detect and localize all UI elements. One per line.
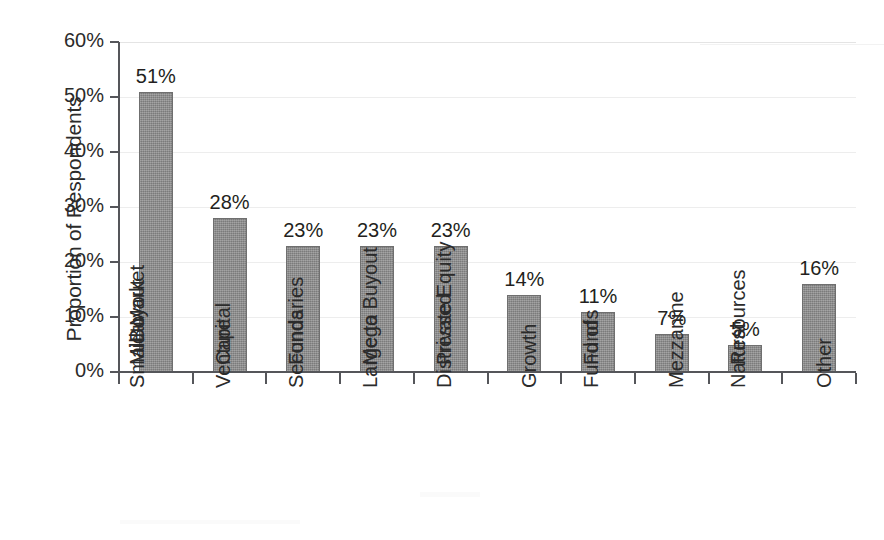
x-category-label-line: Mezzanine bbox=[665, 365, 688, 388]
x-category-label-line: Venture bbox=[212, 365, 235, 388]
gridline-60 bbox=[119, 42, 856, 43]
x-category-label-line: Capital bbox=[212, 342, 235, 365]
bar-value-label: 23% bbox=[414, 219, 488, 242]
x-tick-mark-6 bbox=[560, 373, 562, 384]
x-tick-mark-1 bbox=[192, 373, 194, 384]
bar-value-label: 51% bbox=[119, 65, 193, 88]
x-category-label-line: Large to bbox=[359, 365, 382, 388]
y-tick-label-0: 0% bbox=[34, 359, 104, 382]
x-tick-mark-9 bbox=[781, 373, 783, 384]
x-category-label-line: Growth bbox=[518, 365, 541, 388]
x-category-label-line: Buyout bbox=[126, 319, 149, 342]
x-tick-mark-4 bbox=[413, 373, 415, 384]
gridline-40 bbox=[119, 152, 856, 153]
bar-value-label: 23% bbox=[266, 219, 340, 242]
y-tick-label-50: 50% bbox=[34, 84, 104, 107]
bar-value-label: 11% bbox=[561, 285, 635, 308]
x-category-label-line: Other bbox=[813, 365, 836, 388]
bar-value-label: 16% bbox=[782, 257, 856, 280]
bar-chart-figure: Proportion of Respondents 0%10%20%30%40%… bbox=[0, 0, 884, 540]
x-category-label-line: Distressed bbox=[433, 365, 456, 388]
bar-value-label: 23% bbox=[340, 219, 414, 242]
x-category-label-line: Private Equity bbox=[433, 342, 456, 365]
x-category-label-line: Natural bbox=[727, 365, 750, 388]
x-tick-mark-3 bbox=[339, 373, 341, 384]
scan-artifact-smudge bbox=[120, 520, 300, 524]
y-tick-label-20: 20% bbox=[34, 249, 104, 272]
gridline-50 bbox=[119, 97, 856, 98]
x-tick-mark-10 bbox=[855, 373, 857, 384]
y-axis-line bbox=[118, 42, 120, 373]
scan-artifact-smudge-2 bbox=[420, 492, 480, 497]
x-tick-mark-5 bbox=[487, 373, 489, 384]
y-tick-label-10: 10% bbox=[34, 304, 104, 327]
x-category-label-line: Mega Buyout bbox=[359, 342, 382, 365]
x-category-label-line: Small to bbox=[126, 365, 149, 388]
x-category-label-line: Secondaries bbox=[285, 365, 308, 388]
y-tick-label-40: 40% bbox=[34, 139, 104, 162]
x-category-label-line: Funds bbox=[285, 342, 308, 365]
bar-value-label: 14% bbox=[488, 268, 562, 291]
x-category-label-line: Funds bbox=[580, 342, 603, 365]
x-tick-mark-0 bbox=[118, 373, 120, 384]
x-category-label-line: Mid-Market bbox=[126, 342, 149, 365]
x-tick-mark-2 bbox=[265, 373, 267, 384]
y-tick-label-30: 30% bbox=[34, 194, 104, 217]
x-category-label-line: Fund of bbox=[580, 365, 603, 388]
bar-value-label: 28% bbox=[193, 191, 267, 214]
x-tick-mark-7 bbox=[634, 373, 636, 384]
x-category-label-line: Resources bbox=[727, 342, 750, 365]
x-tick-mark-8 bbox=[708, 373, 710, 384]
y-tick-label-60: 60% bbox=[34, 29, 104, 52]
